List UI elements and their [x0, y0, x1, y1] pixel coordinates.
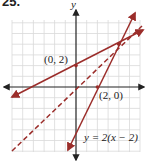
label-equation: y = 2(x − 2) — [83, 131, 138, 144]
point-intersection — [117, 42, 121, 46]
label-point-2-0: (2, 0) — [99, 89, 123, 102]
point-0-2 — [74, 64, 78, 68]
graph: y (0, 2) (2, 0) y = 2(x − 2) — [0, 0, 147, 163]
y-axis-label: y — [70, 0, 76, 10]
label-point-0-2: (0, 2) — [44, 53, 68, 66]
